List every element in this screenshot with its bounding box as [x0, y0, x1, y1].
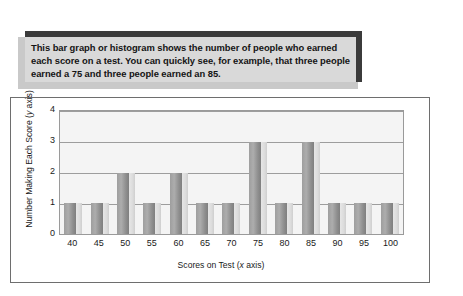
- x-axis-title: Scores on Test (x axis): [51, 260, 391, 270]
- x-tick-label: 80: [272, 238, 296, 248]
- bar-side-face: [182, 173, 188, 235]
- bar-slot: [61, 111, 85, 234]
- bar-front-face: [170, 173, 182, 235]
- x-tick-label: 100: [378, 238, 402, 248]
- bar-side-face: [208, 203, 214, 234]
- bar-slot: [378, 111, 402, 234]
- y-tick-label: 3: [39, 135, 55, 145]
- bar-side-face: [314, 142, 320, 234]
- bar: [222, 203, 240, 234]
- x-axis-title-suffix: axis): [244, 260, 265, 270]
- bar-front-face: [117, 173, 129, 235]
- bar-front-face: [64, 203, 76, 234]
- bar-slot: [87, 111, 111, 234]
- bar: [381, 203, 399, 234]
- x-tick-label: 40: [60, 238, 84, 248]
- bar-slot: [193, 111, 217, 234]
- bar: [143, 203, 161, 234]
- bar: [302, 142, 320, 234]
- bar-side-face: [103, 203, 109, 234]
- y-tick-label: 1: [39, 197, 55, 207]
- bar-slot: [246, 111, 270, 234]
- bars-layer: [60, 111, 403, 234]
- bar-front-face: [328, 203, 340, 234]
- bar-slot: [140, 111, 164, 234]
- bar: [275, 203, 293, 234]
- y-axis-title-prefix: Number Making Each Score (: [24, 115, 34, 228]
- bar: [328, 203, 346, 234]
- bar: [91, 203, 109, 234]
- bar-front-face: [275, 203, 287, 234]
- caption-right-accent-bar: [356, 31, 362, 82]
- bar: [196, 203, 214, 234]
- bar-side-face: [261, 142, 267, 234]
- bar-side-face: [76, 203, 82, 234]
- caption-top-accent-bar: [25, 31, 362, 37]
- bar: [64, 203, 82, 234]
- x-tick-label: 45: [87, 238, 111, 248]
- x-tick-label: 50: [113, 238, 137, 248]
- x-axis-ticks: 404550556065707580859095100: [59, 238, 404, 248]
- bar-side-face: [234, 203, 240, 234]
- bar-side-face: [155, 203, 161, 234]
- bar-front-face: [196, 203, 208, 234]
- bar: [170, 173, 188, 235]
- x-tick-label: 65: [193, 238, 217, 248]
- bar-side-face: [340, 203, 346, 234]
- x-tick-label: 85: [299, 238, 323, 248]
- x-tick-label: 55: [140, 238, 164, 248]
- bar-front-face: [381, 203, 393, 234]
- y-tick-label: 4: [39, 104, 55, 114]
- x-tick-label: 75: [246, 238, 270, 248]
- bar-side-face: [393, 203, 399, 234]
- x-tick-label: 90: [325, 238, 349, 248]
- bar-slot: [219, 111, 243, 234]
- bar-front-face: [91, 203, 103, 234]
- bar: [117, 173, 135, 235]
- x-tick-label: 70: [219, 238, 243, 248]
- y-axis-title-variable: y: [24, 111, 34, 115]
- bar-side-face: [287, 203, 293, 234]
- y-tick-label: 0: [39, 228, 55, 238]
- x-tick-label: 95: [352, 238, 376, 248]
- bar-slot: [325, 111, 349, 234]
- plot-area: [59, 110, 404, 235]
- y-axis-title: Number Making Each Score (y axis): [24, 79, 34, 239]
- bar-front-face: [354, 203, 366, 234]
- bar-slot: [114, 111, 138, 234]
- bar-front-face: [249, 142, 261, 234]
- y-tick-label: 2: [39, 166, 55, 176]
- bar-slot: [351, 111, 375, 234]
- bar-front-face: [302, 142, 314, 234]
- x-tick-label: 60: [166, 238, 190, 248]
- y-axis-title-suffix: axis): [24, 90, 34, 111]
- bar-side-face: [366, 203, 372, 234]
- bar-slot: [167, 111, 191, 234]
- x-axis-title-prefix: Scores on Test (: [178, 260, 240, 270]
- y-axis-ticks: 4 3 2 1 0: [35, 110, 55, 235]
- bar: [354, 203, 372, 234]
- bar-slot: [298, 111, 322, 234]
- bar-front-face: [143, 203, 155, 234]
- caption-text: This bar graph or histogram shows the nu…: [31, 41, 351, 81]
- bar-slot: [272, 111, 296, 234]
- bar-front-face: [222, 203, 234, 234]
- bar-side-face: [129, 173, 135, 235]
- bar: [249, 142, 267, 234]
- figure-frame: Number Making Each Score (y axis) 4 3 2 …: [10, 97, 430, 283]
